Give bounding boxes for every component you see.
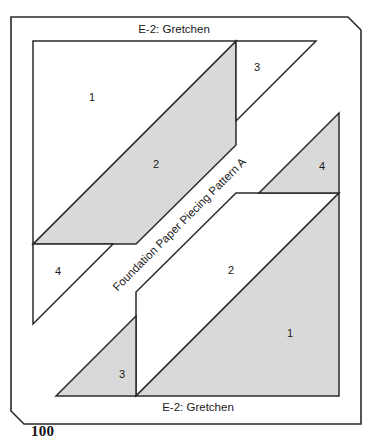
block-a-title: E-2: Gretchen (138, 23, 210, 35)
region-label-a-4: 4 (55, 265, 61, 277)
region-label-a-1: 1 (89, 91, 95, 103)
region-label-a-3: 3 (254, 61, 260, 73)
pattern-page: E-2: Gretchen Foundation Paper Piecing P… (0, 0, 372, 444)
foundation-paper-piecing-diagram: E-2: Gretchen Foundation Paper Piecing P… (0, 0, 372, 444)
block-b-title: E-2: Gretchen (162, 401, 234, 413)
region-label-b-2: 2 (228, 264, 234, 276)
page-number: 100 (31, 423, 54, 440)
region-label-a-2: 2 (153, 158, 159, 170)
region-label-b-1: 1 (287, 327, 293, 339)
region-label-b-3: 3 (119, 368, 125, 380)
region-label-b-4: 4 (319, 160, 325, 172)
